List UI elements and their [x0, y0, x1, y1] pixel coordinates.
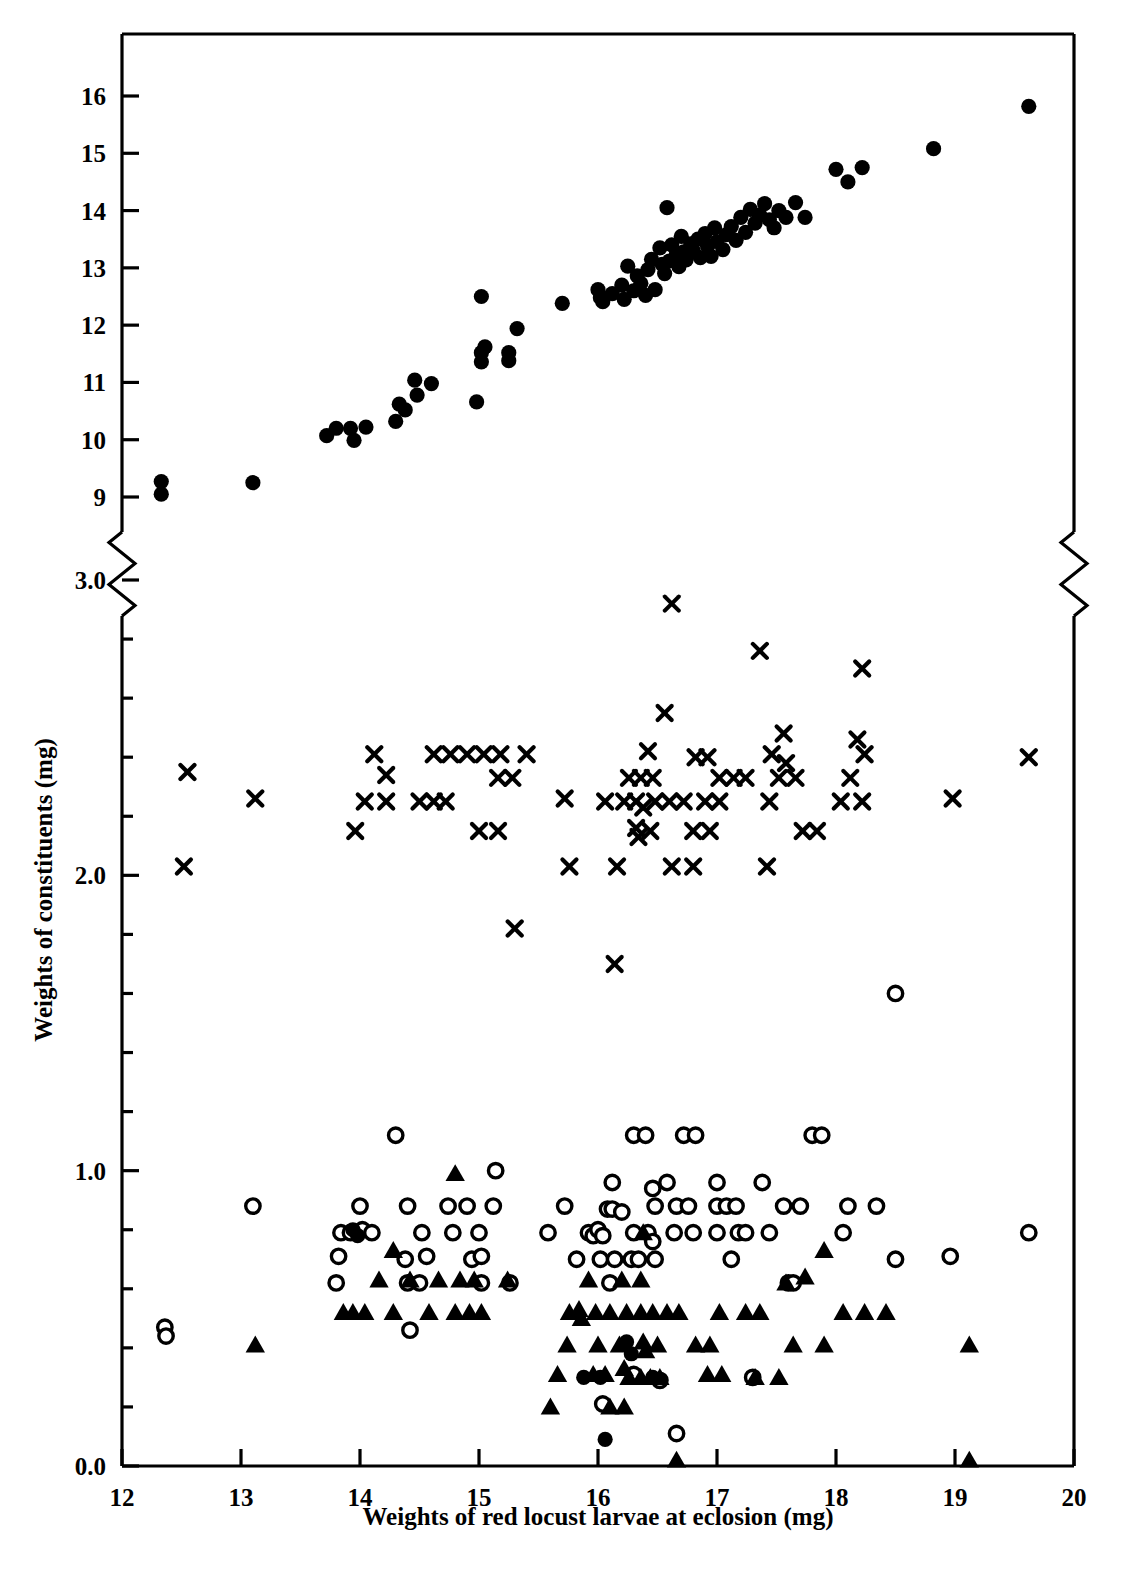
filled-triangle-point-38 [876, 1303, 895, 1320]
open-circle-point-9 [660, 1175, 674, 1189]
filled-circle-lower-point-4 [576, 1370, 591, 1385]
filled-circle-upper-point-14 [469, 394, 484, 409]
cross-marker-point-36 [413, 795, 427, 809]
cross-marker-point-40 [598, 795, 612, 809]
filled-triangle-point-60 [712, 1365, 731, 1382]
open-circle-point-62 [593, 1252, 607, 1266]
cross-marker-point-45 [662, 795, 676, 809]
cross-marker-point-32 [843, 771, 857, 785]
cross-marker-point-17 [779, 756, 793, 770]
filled-triangle-point-18 [384, 1303, 403, 1320]
filled-triangle-point-27 [600, 1303, 619, 1320]
open-circle-point-2 [638, 1128, 652, 1142]
filled-triangle-point-10 [579, 1271, 598, 1288]
filled-triangle-point-35 [750, 1303, 769, 1320]
y-upper-tick-label-14: 14 [81, 198, 107, 225]
filled-triangle-point-50 [960, 1336, 979, 1353]
open-circle-point-31 [841, 1199, 855, 1213]
cross-marker-point-6 [367, 747, 381, 761]
filled-circle-upper-point-72 [797, 210, 812, 225]
cross-marker-point-34 [358, 795, 372, 809]
filled-triangle-point-62 [769, 1368, 788, 1385]
y-axis-break-left [109, 532, 135, 616]
cross-marker-point-60 [703, 824, 717, 838]
open-circle-point-28 [729, 1199, 743, 1213]
filled-triangle-point-0 [446, 1164, 465, 1181]
cross-marker-point-0 [665, 597, 679, 611]
filled-circle-upper-point-19 [501, 353, 516, 368]
filled-circle-upper-point-74 [840, 174, 855, 189]
cross-marker-point-2 [855, 662, 869, 676]
cross-marker-point-63 [562, 859, 576, 873]
open-circle-point-13 [246, 1199, 260, 1213]
x-tick-label-12: 12 [110, 1484, 135, 1511]
filled-circle-upper-point-75 [855, 160, 870, 175]
y-upper-tick-label-12: 12 [81, 312, 106, 339]
cross-marker-point-49 [762, 795, 776, 809]
open-circle-point-60 [474, 1249, 488, 1263]
filled-circle-upper-point-6 [346, 433, 361, 448]
filled-triangle-point-22 [472, 1303, 491, 1320]
open-circle-point-65 [631, 1252, 645, 1266]
cross-marker-point-19 [1022, 750, 1036, 764]
filled-circle-lower-point-6 [645, 1370, 660, 1385]
open-circle-point-48 [667, 1225, 681, 1239]
filled-triangle-point-3 [814, 1241, 833, 1258]
filled-triangle-point-17 [355, 1303, 374, 1320]
cross-marker-point-20 [180, 765, 194, 779]
open-circle-point-11 [755, 1175, 769, 1189]
cross-marker-point-3 [658, 706, 672, 720]
filled-circle-upper-point-17 [477, 339, 492, 354]
y-axis-title: Weights of constituents (mg) [30, 738, 58, 1041]
y-upper-tick-label-10: 10 [81, 427, 106, 454]
open-circle-point-79 [159, 1329, 173, 1343]
filled-triangle-point-37 [855, 1303, 874, 1320]
filled-triangle-point-41 [588, 1336, 607, 1353]
open-circle-point-54 [836, 1225, 850, 1239]
open-circle-point-32 [869, 1199, 883, 1213]
filled-triangle-point-33 [710, 1303, 729, 1320]
filled-circle-upper-point-66 [757, 196, 772, 211]
open-circle-point-68 [888, 1252, 902, 1266]
filled-circle-upper-point-76 [926, 141, 941, 156]
open-circle-point-15 [400, 1199, 414, 1213]
open-circle-point-86 [888, 986, 902, 1000]
cross-marker-point-68 [177, 859, 191, 873]
filled-circle-upper-point-77 [1021, 99, 1036, 114]
x-tick-label-19: 19 [943, 1484, 968, 1511]
cross-marker-point-29 [739, 771, 753, 785]
cross-marker-point-53 [348, 824, 362, 838]
filled-circle-upper-point-11 [407, 373, 422, 388]
filled-circle-upper-point-71 [788, 195, 803, 210]
cross-marker-point-47 [698, 795, 712, 809]
y-upper-tick-label-16: 16 [81, 83, 106, 110]
cross-marker-point-21 [379, 768, 393, 782]
cross-marker-point-51 [855, 795, 869, 809]
cross-marker-point-12 [520, 747, 534, 761]
y-lower-tick-label-1.0: 1.0 [75, 1158, 106, 1185]
cross-marker-point-1 [753, 644, 767, 658]
cross-marker-point-48 [712, 795, 726, 809]
open-circle-point-63 [607, 1252, 621, 1266]
open-circle-point-36 [365, 1225, 379, 1239]
open-circle-point-40 [541, 1225, 555, 1239]
cross-marker-point-62 [810, 824, 824, 838]
filled-circle-upper-point-40 [659, 200, 674, 215]
cross-marker-point-52 [946, 792, 960, 806]
open-circle-point-12 [646, 1181, 660, 1195]
open-circle-point-58 [419, 1249, 433, 1263]
cross-marker-point-18 [858, 747, 872, 761]
filled-circle-upper-point-22 [555, 296, 570, 311]
open-circle-point-50 [710, 1225, 724, 1239]
filled-triangle-point-1 [384, 1241, 403, 1258]
cross-marker-point-65 [665, 859, 679, 873]
open-circle-point-4 [688, 1128, 702, 1142]
open-circle-point-23 [648, 1199, 662, 1213]
open-circle-point-53 [762, 1225, 776, 1239]
filled-triangle-point-63 [541, 1398, 560, 1415]
open-circle-point-69 [943, 1249, 957, 1263]
open-circle-point-19 [557, 1199, 571, 1213]
data-points [154, 99, 1037, 1468]
x-tick-label-13: 13 [229, 1484, 254, 1511]
cross-marker-point-15 [700, 750, 714, 764]
